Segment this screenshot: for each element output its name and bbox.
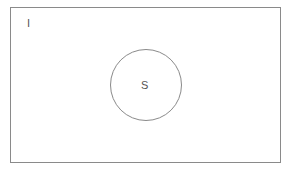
universal-set-label: I [27, 17, 30, 29]
set-s-label: S [141, 79, 148, 91]
